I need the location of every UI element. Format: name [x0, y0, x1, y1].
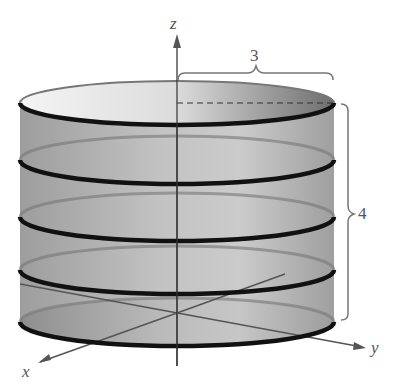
- z-axis-label: z: [170, 14, 177, 34]
- cylinder-figure: z x y 3 4: [0, 0, 395, 391]
- x-axis-label: x: [22, 362, 30, 382]
- radius-brace: [178, 66, 333, 80]
- radius-label: 3: [250, 46, 259, 66]
- height-brace: [341, 104, 354, 320]
- y-axis-label: y: [371, 338, 379, 358]
- cylinder-diagram: [0, 0, 395, 391]
- height-label: 4: [358, 204, 367, 224]
